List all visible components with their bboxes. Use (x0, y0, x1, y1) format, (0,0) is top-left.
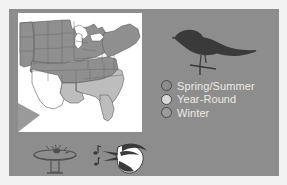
legend-swatch-spring-summer (161, 80, 172, 91)
music-notes-icon (93, 145, 101, 166)
legend-item-spring-summer[interactable]: Spring/Summer (161, 79, 279, 93)
singing-bird-icon[interactable] (92, 139, 154, 176)
range-legend: Spring/Summer Year-Round Winter (161, 79, 279, 120)
perched-bird-silhouette (172, 25, 258, 77)
legend-swatch-winter (161, 107, 172, 118)
legend-label-spring-summer: Spring/Summer (177, 80, 255, 92)
legend-label-winter: Winter (177, 107, 209, 119)
birdbath-icon[interactable] (31, 139, 83, 175)
content-panel: Spring/Summer Year-Round Winter (9, 9, 279, 176)
legend-label-year-round: Year-Round (177, 93, 236, 105)
legend-item-winter[interactable]: Winter (161, 106, 279, 120)
screenshot-root: Spring/Summer Year-Round Winter (0, 0, 287, 185)
range-map-panel[interactable] (18, 13, 142, 132)
legend-item-year-round[interactable]: Year-Round (161, 93, 279, 107)
range-map-svg (18, 13, 142, 132)
region-west (20, 22, 34, 67)
legend-swatch-year-round (161, 94, 172, 105)
